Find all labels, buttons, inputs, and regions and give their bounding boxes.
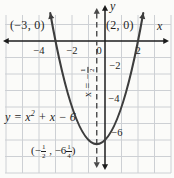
y-axis-label: y: [110, 0, 115, 12]
fraction-numerator: 1: [79, 67, 88, 73]
equation-label: y = x2 + x − 6: [5, 110, 76, 123]
equation-suffix: + x − 6: [35, 110, 76, 124]
y-tick-neg2: −2: [105, 61, 125, 72]
y-tick-neg6: −6: [107, 128, 127, 139]
symmetry-fraction-one-half: 12: [79, 67, 96, 73]
equation-prefix: y = x: [5, 110, 31, 124]
fraction-denominator: 2: [89, 67, 97, 73]
vertex-open-paren: (−: [31, 144, 41, 156]
x-axis-label: x: [157, 20, 162, 32]
vertex-middle-text: , −6: [46, 144, 66, 156]
x-intercept-left-label: (−3, 0): [10, 19, 45, 31]
axis-of-symmetry-label: x = −12: [79, 67, 96, 97]
x-tick-neg4: −4: [29, 46, 49, 57]
x-tick-neg2: −2: [62, 46, 82, 57]
parabola-graph-figure: (−3, 0) (2, 0) x y −4 −2 0 2 −2 −4 −6 y …: [0, 0, 174, 178]
x-tick-2: 2: [128, 46, 148, 57]
symmetry-prefix: x = −: [82, 73, 93, 97]
x-intercept-right-label: (2, 0): [106, 19, 134, 31]
vertex-label: (−12 , −614): [31, 143, 76, 160]
y-tick-neg4: −4: [104, 94, 124, 105]
vertex-close-paren: ): [72, 144, 76, 156]
x-tick-0: 0: [89, 46, 109, 57]
